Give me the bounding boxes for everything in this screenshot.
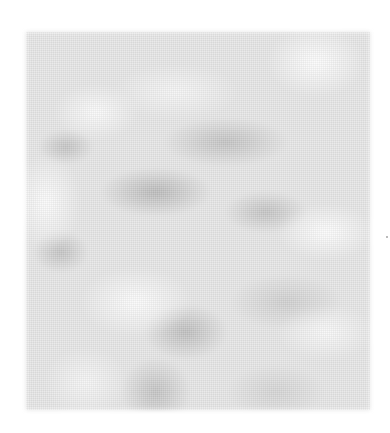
texture-grain-overlay: [26, 32, 370, 410]
stray-mark: [386, 236, 388, 238]
